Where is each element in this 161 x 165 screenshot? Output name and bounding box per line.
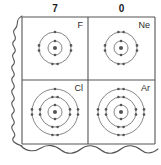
nucleus-neon <box>119 46 123 50</box>
table-grid <box>22 17 155 144</box>
nucleus-chlorine <box>53 110 57 114</box>
nucleus-argon <box>119 110 123 114</box>
atom-diagram-chlorine <box>31 88 80 137</box>
figure-root: 7 0 F Ne Cl Ar <box>0 0 161 165</box>
atom-diagram-argon <box>97 88 146 137</box>
atom-diagram-fluorine <box>38 31 73 66</box>
figure-drawing-layer <box>0 0 161 165</box>
torn-edge-left <box>12 16 22 146</box>
atom-diagram-neon <box>104 31 139 66</box>
torn-edge-bottom <box>21 146 158 154</box>
nucleus-fluorine <box>53 46 57 50</box>
